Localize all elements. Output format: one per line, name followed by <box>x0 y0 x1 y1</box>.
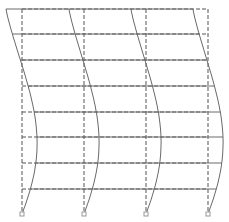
supports <box>20 212 210 216</box>
pin-support-icon <box>20 212 24 216</box>
pin-support-icon <box>144 212 148 216</box>
frame-diagram <box>0 0 229 222</box>
pin-support-icon <box>206 212 210 216</box>
pin-support-icon <box>82 212 86 216</box>
deformed-frame <box>6 9 223 214</box>
